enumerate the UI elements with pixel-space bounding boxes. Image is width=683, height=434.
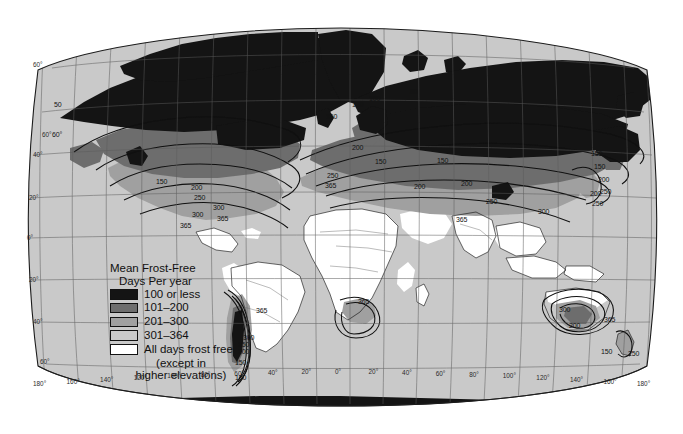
- world-frost-free-days-map: 60° 60° 40° 20° 0° 20° 40° 60° 180°160°1…: [0, 0, 683, 434]
- map-canvas: [0, 0, 683, 434]
- map-body: [0, 0, 683, 434]
- map-screenshot: 60° 60° 40° 20° 0° 20° 40° 60° 180°160°1…: [0, 0, 683, 434]
